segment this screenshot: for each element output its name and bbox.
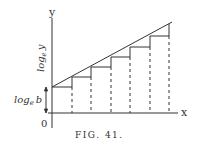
figure-caption: FIG. 41. [75,130,124,140]
origin-label: 0 [41,118,47,129]
y-axis-label: y [48,6,56,19]
dashed-ordinates [72,36,169,113]
intercept-arrow [45,87,48,113]
x-axis-label: x [181,106,188,119]
svg-text:logey: logey [35,44,48,72]
figure-diagram: y x 0 logey logeb FIG. 41. [0,0,199,147]
log-b-annotation: logeb [14,94,42,107]
trend-line [52,22,172,87]
log-y-annotation: logey [35,44,48,72]
